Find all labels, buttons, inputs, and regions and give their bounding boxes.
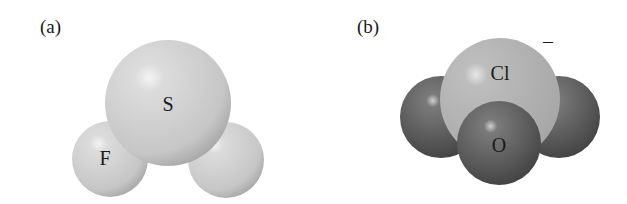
fluorine-label: F xyxy=(99,147,110,169)
molecule-figure: (a) S F (b) Cl O – xyxy=(0,0,627,204)
panel-b: (b) Cl O – xyxy=(357,16,600,185)
charge-label: – xyxy=(542,30,554,52)
sulfur-label: S xyxy=(162,93,173,115)
chlorine-label: Cl xyxy=(491,62,510,84)
panel-a: (a) S F xyxy=(40,16,264,198)
panel-b-label: (b) xyxy=(357,16,379,38)
oxygen-label: O xyxy=(492,134,506,156)
panel-a-label: (a) xyxy=(40,16,61,38)
